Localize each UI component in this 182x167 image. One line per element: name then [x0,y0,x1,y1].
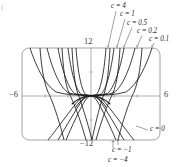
leader-c-4 [108,11,116,47]
curve-label-c-0-5: c = 0.5 [127,20,147,27]
curve-label-c-0-1: c = 0.1 [149,36,169,43]
y-axis-bottom-label: −12 [80,140,93,148]
leader-c-0-5 [124,28,132,48]
figure-container: ( [0,0,182,167]
curve-label-c-0: c = 0 [150,126,165,133]
x-axis-left-label: −6 [9,91,18,99]
y-axis-top-label: 12 [84,38,92,46]
leader-c-1 [117,19,125,47]
curve-label-c-neg-1: c = −1 [112,147,131,154]
curve-label-c-1: c = 1 [120,11,135,18]
x-axis-right-label: 6 [164,91,168,99]
curve-label-c-neg-4: c = −4 [108,157,127,164]
curve-label-c-0-2: c = 0.2 [137,28,157,35]
leader-c-0-2 [137,36,142,48]
